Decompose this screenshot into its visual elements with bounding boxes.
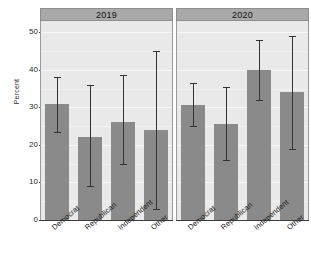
error-bar-cap — [54, 132, 61, 133]
error-bar-cap — [256, 100, 263, 101]
gridline-minor — [177, 89, 308, 90]
error-bar — [90, 85, 91, 186]
plot-area-2019 — [40, 21, 173, 220]
facet-strip-label: 2019 — [96, 10, 117, 20]
y-axis-tick-label: 10 — [16, 178, 38, 186]
gridline — [177, 32, 308, 33]
gridline-minor — [177, 51, 308, 52]
gridline — [177, 70, 308, 71]
facet-strip-label: 2020 — [232, 10, 253, 20]
error-bar-cap — [256, 40, 263, 41]
error-bar — [193, 83, 194, 126]
error-bar-cap — [223, 87, 230, 88]
error-bar-cap — [190, 126, 197, 127]
plot-area-2020 — [176, 21, 309, 220]
error-bar — [156, 51, 157, 209]
error-bar-cap — [54, 77, 61, 78]
gridline — [41, 70, 172, 71]
error-bar — [292, 36, 293, 149]
y-axis-tick-label: 40 — [16, 66, 38, 74]
error-bar-cap — [190, 83, 197, 84]
error-bar — [57, 77, 58, 131]
error-bar-cap — [289, 149, 296, 150]
y-axis-tick-label: 20 — [16, 141, 38, 149]
y-axis-ticks: 01020304050 — [10, 0, 38, 270]
gridline — [41, 32, 172, 33]
error-bar-cap — [120, 75, 127, 76]
gridline-minor — [41, 89, 172, 90]
error-bar-cap — [223, 160, 230, 161]
error-bar — [259, 40, 260, 100]
facet-strip-2020: 2020 — [176, 8, 309, 21]
error-bar-cap — [87, 186, 94, 187]
error-bar-cap — [120, 164, 127, 165]
facet-panel-2020: 2020 — [176, 8, 309, 220]
error-bar — [123, 75, 124, 163]
error-bar-cap — [87, 85, 94, 86]
y-axis-tick-label: 30 — [16, 103, 38, 111]
facet-strip-2019: 2019 — [40, 8, 173, 21]
chart-container: Percent 01020304050 2019 2020 DemocratRe… — [0, 0, 311, 270]
y-axis-tick-label: 50 — [16, 28, 38, 36]
error-bar-cap — [153, 209, 160, 210]
facet-panel-2019: 2019 — [40, 8, 173, 220]
error-bar-cap — [153, 51, 160, 52]
error-bar — [226, 87, 227, 160]
y-axis-tick-label: 0 — [16, 216, 38, 224]
error-bar-cap — [289, 36, 296, 37]
